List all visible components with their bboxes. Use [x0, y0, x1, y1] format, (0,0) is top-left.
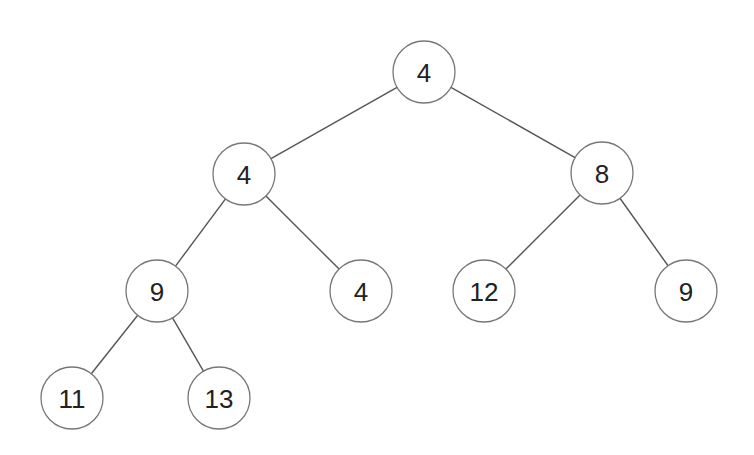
tree-edge: [266, 196, 339, 269]
tree-edge: [175, 199, 225, 266]
node-value: 4: [354, 277, 368, 307]
tree-node: 4: [393, 41, 455, 103]
tree-edge: [620, 198, 668, 265]
tree-node: 13: [188, 367, 250, 429]
tree-node: 9: [655, 260, 717, 322]
tree-edge: [506, 195, 580, 269]
tree-node: 4: [213, 143, 275, 205]
node-value: 9: [679, 277, 693, 307]
node-value: 12: [470, 277, 499, 307]
tree-edge: [173, 318, 204, 371]
tree-diagram: 448941291113: [0, 0, 754, 455]
node-value: 11: [59, 384, 86, 414]
tree-edge: [451, 87, 575, 157]
tree-node: 9: [126, 260, 188, 322]
node-value: 13: [205, 384, 234, 414]
edges-layer: [91, 87, 668, 373]
tree-svg: 448941291113: [0, 0, 754, 455]
tree-node: 4: [330, 260, 392, 322]
tree-node: 11: [41, 367, 103, 429]
node-value: 4: [417, 58, 431, 88]
tree-edge: [271, 87, 397, 158]
node-value: 9: [150, 277, 164, 307]
nodes-layer: 448941291113: [41, 41, 717, 429]
tree-edge: [91, 315, 137, 373]
node-value: 8: [595, 159, 609, 189]
tree-node: 8: [571, 142, 633, 204]
node-value: 4: [237, 160, 251, 190]
tree-node: 12: [453, 260, 515, 322]
